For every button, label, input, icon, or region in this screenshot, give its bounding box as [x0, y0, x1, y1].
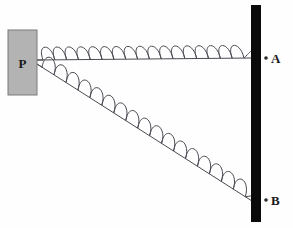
physics-diagram-figure: P A B	[0, 0, 293, 228]
spring-group	[37, 45, 256, 201]
anchor-b-dot	[264, 198, 268, 202]
anchor-b-label: B	[271, 193, 280, 208]
anchor-a-label: A	[271, 51, 281, 66]
vertical-wall	[251, 5, 261, 222]
diagram-canvas: P A B	[0, 0, 293, 228]
anchor-a-dot	[264, 56, 268, 60]
anchor-b-group: B	[264, 193, 280, 208]
anchor-a-group: A	[264, 51, 281, 66]
diagonal-spring-path	[37, 57, 256, 201]
block-p-label: P	[19, 56, 27, 71]
horizontal-spring-path	[37, 45, 252, 60]
block-p: P	[8, 30, 37, 95]
